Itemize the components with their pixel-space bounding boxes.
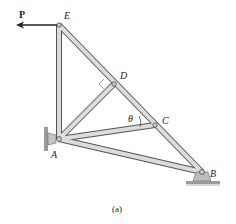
- truss-diagram: P E D C A B θ (a): [0, 0, 236, 224]
- figure-caption: (a): [112, 204, 122, 214]
- node-label-C: C: [162, 115, 169, 126]
- pin-E: [57, 23, 61, 27]
- force-label: P: [19, 9, 25, 20]
- angle-label: θ: [128, 113, 133, 124]
- right-angle-marker: [99, 79, 104, 89]
- node-label-B: B: [210, 168, 216, 179]
- pin-C: [153, 123, 157, 127]
- support-A: [44, 127, 56, 151]
- force-arrow-P: [16, 22, 57, 29]
- pin-B: [200, 170, 205, 175]
- pin-D: [112, 82, 116, 86]
- truss-members: [59, 25, 202, 172]
- node-label-D: D: [119, 70, 128, 81]
- node-label-E: E: [63, 10, 70, 21]
- pin-A: [57, 137, 62, 142]
- node-label-A: A: [50, 149, 58, 160]
